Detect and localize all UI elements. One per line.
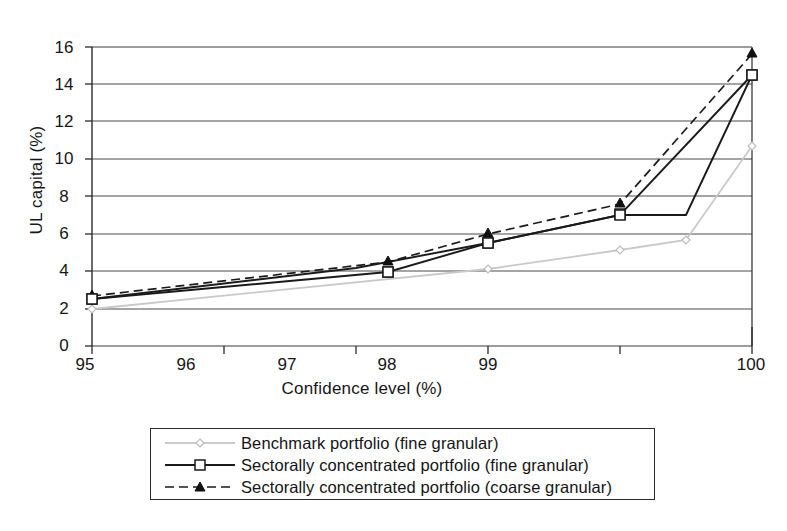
series-sectorally-concentrated-fine <box>87 70 757 304</box>
legend-label: Benchmark portfolio (fine granular) <box>241 434 499 453</box>
data-marker <box>747 48 757 57</box>
legend-swatch-benchmark <box>159 432 241 454</box>
legend-item-benchmark-portfolio[interactable]: Benchmark portfolio (fine granular) <box>159 432 499 454</box>
legend-label: Sectorally concentrated portfolio (coars… <box>241 478 612 497</box>
data-marker <box>616 246 624 254</box>
chart-figure: UL capital (%) Confidence level (%) 16 1… <box>0 0 787 531</box>
series-fine-overlay <box>87 70 757 304</box>
legend-label: Sectorally concentrated portfolio (fine … <box>241 456 589 475</box>
chart-legend: Benchmark portfolio (fine granular) Sect… <box>150 428 655 500</box>
data-marker <box>483 238 493 248</box>
data-marker <box>483 228 493 237</box>
legend-swatch-concentrated-fine <box>159 454 241 476</box>
data-marker <box>484 265 492 273</box>
data-marker <box>383 267 393 277</box>
data-marker <box>747 70 757 80</box>
data-marker <box>88 305 96 313</box>
legend-swatch-concentrated-coarse <box>159 476 241 498</box>
data-marker <box>87 294 97 304</box>
legend-item-concentrated-fine[interactable]: Sectorally concentrated portfolio (fine … <box>159 454 589 476</box>
gridlines <box>92 47 752 346</box>
data-marker <box>615 198 625 207</box>
data-marker <box>615 210 625 220</box>
x-axis-ticks <box>92 327 752 354</box>
legend-item-concentrated-coarse[interactable]: Sectorally concentrated portfolio (coars… <box>159 476 612 498</box>
